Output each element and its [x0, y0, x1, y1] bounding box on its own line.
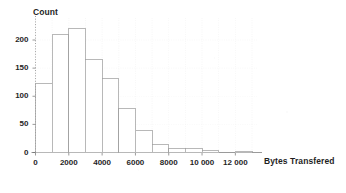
histogram-bar [119, 109, 136, 153]
y-tick-label: 0 [3, 149, 29, 157]
histogram-bar [102, 79, 119, 153]
x-tick-label: 12 000 [215, 159, 255, 167]
histogram-bar [152, 145, 169, 153]
x-axis-title: Bytes Transfered [264, 157, 335, 166]
y-tick-label: 50 [3, 120, 29, 128]
histogram-bar [185, 149, 202, 153]
y-axis-title: Count [33, 8, 58, 17]
histogram-bar [69, 29, 86, 153]
y-tick-label: 150 [3, 64, 29, 72]
histogram-bar [52, 34, 69, 152]
histogram-bar [85, 60, 102, 153]
histogram-bar [169, 148, 186, 153]
histogram-bar [235, 152, 252, 153]
histogram-chart: Count Bytes Transfered 050100150200 0200… [0, 0, 346, 193]
histogram-bar [135, 130, 152, 153]
y-tick-label: 100 [3, 92, 29, 100]
histogram-bar [202, 151, 219, 153]
bars [36, 29, 253, 153]
histogram-bar [36, 84, 53, 153]
y-tick-label: 200 [3, 36, 29, 44]
